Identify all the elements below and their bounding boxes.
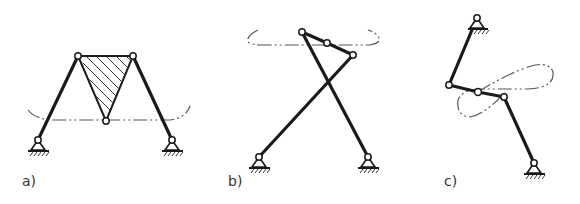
link-left-b (259, 55, 353, 157)
joint (446, 82, 452, 88)
joint (299, 29, 305, 35)
joint (475, 89, 482, 96)
joint (256, 154, 262, 160)
panel-b: b) (228, 29, 379, 189)
joint (501, 94, 507, 100)
joint (75, 53, 81, 59)
panel-c: c) (444, 15, 553, 189)
link-right-b (302, 32, 368, 157)
panel-label-c: c) (444, 173, 457, 189)
joint (365, 154, 371, 160)
rocker-right-a (133, 56, 172, 140)
panel-label-a: a) (22, 173, 36, 189)
mechanism-diagram: a) (0, 0, 580, 204)
joint (474, 15, 480, 21)
joint (103, 118, 109, 124)
joint (531, 160, 537, 166)
joint (169, 137, 175, 143)
joint (324, 40, 330, 46)
rocker-bottom-c (504, 97, 534, 163)
joint (130, 53, 136, 59)
panel-label-b: b) (228, 173, 242, 189)
crank-left-a (38, 56, 78, 140)
joint (350, 52, 356, 58)
panel-a: a) (22, 40, 190, 189)
joint (35, 137, 41, 143)
